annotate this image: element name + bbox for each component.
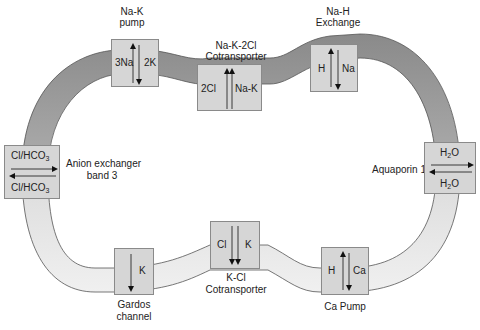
anion-exchanger-caption: Anion exchanger band 3 bbox=[66, 158, 138, 182]
anion-exchanger-box: Cl/HCO3 Cl/HCO3 bbox=[4, 145, 60, 199]
kcl-caption-line1: K-Cl bbox=[200, 272, 272, 284]
kcl-caption-line2: Cotransporter bbox=[200, 284, 272, 296]
kcl-box: Cl K bbox=[210, 221, 260, 269]
na-h-title-line1: Na-H bbox=[310, 6, 366, 17]
gardos-box: K bbox=[114, 248, 154, 295]
aquaporin-box: H2O H2O bbox=[424, 142, 476, 194]
na-k-pump-title-line1: Na-K bbox=[112, 6, 152, 17]
exchange-arrows-icon bbox=[311, 45, 359, 93]
ca-pump-caption: Ca Pump bbox=[315, 301, 375, 313]
gardos-caption: Gardos channel bbox=[104, 299, 164, 323]
aquaporin-caption: Aquaporin 1 bbox=[366, 164, 426, 176]
ca-pump-box: H Ca bbox=[321, 247, 369, 295]
nkcc-title-line2: Cotransporter bbox=[198, 51, 274, 62]
na-h-title: Na-H Exchange bbox=[310, 6, 366, 28]
bidirectional-arrows-icon bbox=[425, 143, 477, 195]
anion-caption-line1: Anion exchanger bbox=[66, 158, 138, 170]
nkcc-box: 2Cl Na-K bbox=[197, 64, 262, 111]
rbc-transporter-diagram: Na-K pump 3Na 2K Na-K-2Cl Cotransporter … bbox=[0, 0, 480, 330]
bidirectional-arrows-icon bbox=[5, 146, 61, 200]
na-k-pump-box: 3Na 2K bbox=[111, 39, 159, 87]
na-h-title-line2: Exchange bbox=[310, 17, 366, 28]
anion-caption-line2: band 3 bbox=[66, 170, 138, 182]
nkcc-title-line1: Na-K-2Cl bbox=[198, 40, 274, 51]
kcl-caption: K-Cl Cotransporter bbox=[200, 272, 272, 296]
na-k-pump-title-line2: pump bbox=[112, 17, 152, 28]
na-k-pump-title: Na-K pump bbox=[112, 6, 152, 28]
nkcc-title: Na-K-2Cl Cotransporter bbox=[198, 40, 274, 62]
gardos-caption-line2: channel bbox=[104, 311, 164, 323]
cotransport-down-arrows-icon bbox=[211, 222, 261, 270]
gardos-caption-line1: Gardos bbox=[104, 299, 164, 311]
cotransport-up-arrows-icon bbox=[198, 65, 263, 112]
na-h-box: H Na bbox=[310, 44, 358, 92]
efflux-arrow-icon bbox=[115, 249, 155, 296]
exchange-arrows-icon bbox=[322, 248, 370, 296]
exchange-arrows-icon bbox=[112, 40, 160, 88]
